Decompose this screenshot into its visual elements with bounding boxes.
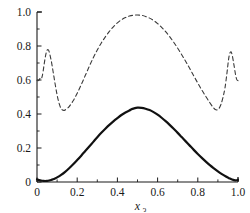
figure-container: 00.20.40.60.81.000.20.40.60.81.0 x3 <box>0 0 250 212</box>
y-tick-label: 0.6 <box>17 74 32 86</box>
y-tick-label: 0.8 <box>17 40 32 52</box>
y-tick-label: 0.4 <box>17 108 32 120</box>
x-tick-label: 0.6 <box>150 186 165 198</box>
x-tick-label: 1.0 <box>231 186 246 198</box>
y-tick-label: 0 <box>25 176 31 188</box>
y-tick-label: 1.0 <box>17 6 32 18</box>
line-chart: 00.20.40.60.81.000.20.40.60.81.0 x3 <box>0 0 250 212</box>
x-tick-label: 0 <box>34 186 40 198</box>
x-axis-label-subscript: 3 <box>143 207 147 213</box>
x-tick-label: 0.2 <box>70 186 85 198</box>
x-tick-label: 0.8 <box>191 186 206 198</box>
x-tick-label: 0.4 <box>110 186 125 198</box>
y-tick-label: 0.2 <box>17 142 32 154</box>
x-axis-label-text: x <box>134 199 141 212</box>
